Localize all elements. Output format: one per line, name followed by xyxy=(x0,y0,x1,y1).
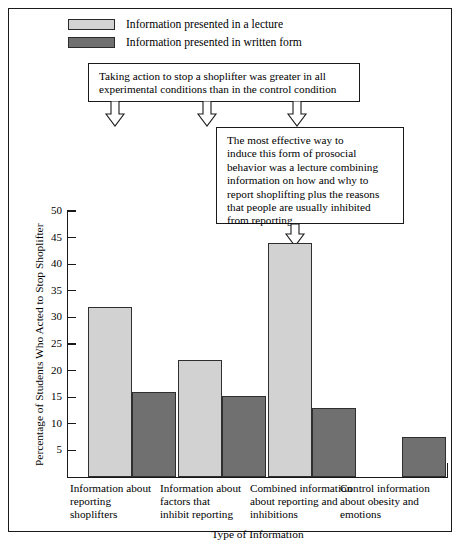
bar-g3-s2 xyxy=(312,408,356,477)
category-label-line: inhibit reporting xyxy=(160,508,264,521)
figure-container: Information presented in a lecture Infor… xyxy=(0,0,465,555)
x-axis-title: Type of Information xyxy=(67,528,448,540)
category-label-line: emotions xyxy=(340,508,444,521)
y-axis-title: Percentage of Students Who Acted to Stop… xyxy=(33,226,45,466)
y-tick-20 xyxy=(68,370,76,371)
category-label-line: reporting xyxy=(70,495,174,508)
y-tick-30 xyxy=(68,317,76,318)
category-label-2: Information aboutfactors thatinhibit rep… xyxy=(160,482,264,522)
category-label-4: Control informationabout obesity andemot… xyxy=(340,482,444,522)
category-label-line: Information about xyxy=(160,482,264,495)
bar-g1-s1 xyxy=(88,307,132,477)
category-label-1: Information aboutreportingshoplifters xyxy=(70,482,174,522)
x-axis-endcap xyxy=(447,463,448,478)
y-tick-25 xyxy=(68,343,76,344)
y-tick-35 xyxy=(68,290,76,291)
bar-g2-s1 xyxy=(178,360,222,477)
y-tick-15 xyxy=(68,397,76,398)
category-label-line: about reporting and xyxy=(250,495,354,508)
bar-g4-s2 xyxy=(402,437,446,477)
bar-g3-s1 xyxy=(268,243,312,477)
y-tick-10 xyxy=(68,423,76,424)
y-tick-50 xyxy=(68,210,76,211)
category-label-line: factors that xyxy=(160,495,264,508)
y-tick-40 xyxy=(68,264,76,265)
category-label-line: Information about xyxy=(70,482,174,495)
y-tick-5 xyxy=(68,450,76,451)
bar-g2-s2 xyxy=(222,396,266,477)
category-label-line: inhibitions xyxy=(250,508,354,521)
y-tick-45 xyxy=(68,237,76,238)
category-label-line: shoplifters xyxy=(70,508,174,521)
plot-area: 5101520253035404550 Information aboutrep… xyxy=(0,0,465,555)
category-label-line: Control information xyxy=(340,482,444,495)
category-label-3: Combined informationabout reporting andi… xyxy=(250,482,354,522)
x-axis-line xyxy=(67,477,448,478)
bar-g1-s2 xyxy=(132,392,176,477)
category-label-line: about obesity and xyxy=(340,495,444,508)
y-tick-label-50: 50 xyxy=(40,205,62,216)
category-label-line: Combined information xyxy=(250,482,354,495)
